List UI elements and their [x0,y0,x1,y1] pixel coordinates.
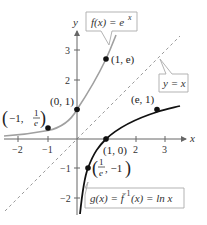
point-inv-e-neg1 [85,165,91,171]
svg-text:x: x [127,13,132,22]
label-e-1: (e, 1) [131,93,155,106]
point-neg1-inv-e [45,125,51,131]
y-tick-neg1: −1 [60,163,71,174]
x-tick-neg1: −1 [42,144,53,155]
label-neg1-inv-e: ( −1, 1 e ) [2,108,46,129]
svg-text:(: ( [2,108,8,129]
point-1-0 [103,136,109,142]
identity-line [5,36,180,211]
svg-text:1: 1 [99,157,104,167]
svg-text:y = x: y = x [162,77,186,89]
y-axis-label: y [72,16,78,28]
y-tick-neg2: −2 [60,193,71,204]
x-tick-neg2: −2 [12,144,23,155]
y-tick-2: 2 [65,75,70,86]
svg-text:(: ( [92,158,98,179]
function-inverse-graph: x y −2 −1 2 3 3 2 −1 −2 (1, e) (0, 1) (e… [0,0,207,225]
svg-text:e: e [99,168,103,178]
y-tick-3: 3 [65,45,70,56]
label-1-e: (1, e) [111,53,135,66]
svg-text:1: 1 [34,108,39,118]
callout-ln: g(x) = f −1 (x) = ln x [85,182,184,208]
point-1-e [103,56,109,62]
svg-text:f(x) = e: f(x) = e [91,16,124,29]
svg-text:(x) = ln x: (x) = ln x [131,192,172,205]
svg-text:−1,: −1, [9,112,24,124]
svg-text:e: e [34,118,38,128]
svg-text:−1: −1 [122,189,131,198]
callout-identity: y = x [159,59,188,92]
point-e-1 [154,107,160,113]
x-tick-2: 2 [133,144,138,155]
svg-text:): ) [125,158,131,179]
label-inv-e-neg1: ( 1 e , −1 ) [92,157,131,179]
svg-text:, −1: , −1 [105,162,122,174]
svg-text:g(x) = f: g(x) = f [90,192,126,205]
x-tick-3: 3 [162,144,167,155]
label-0-1: (0, 1) [50,95,74,108]
label-1-0: (1, 0) [103,144,127,157]
point-0-1 [74,107,80,113]
x-axis-label: x [189,132,195,144]
callout-exp: f(x) = e x [86,12,137,45]
svg-text:): ) [40,108,46,129]
